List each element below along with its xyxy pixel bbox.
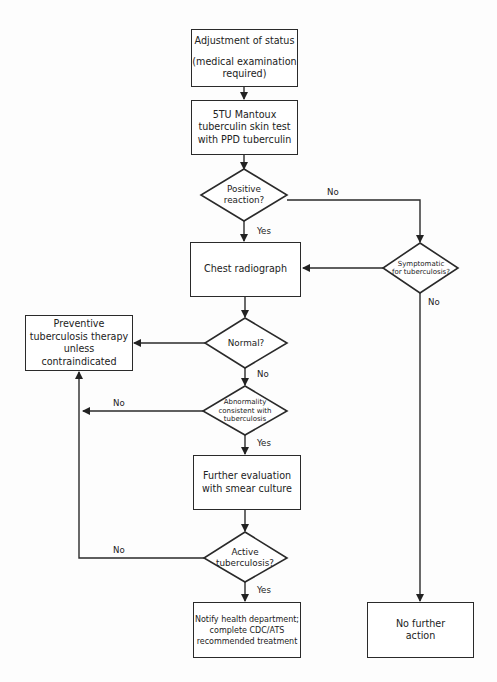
edge-label-abnormality-yes: Yes <box>257 438 271 448</box>
decision-text: Positive <box>227 184 261 195</box>
node-text: action <box>406 630 436 643</box>
node-text: Notify health department; <box>195 614 299 625</box>
edge-label-active-yes: Yes <box>257 585 271 595</box>
node-chest-radiograph: Chest radiograph <box>190 242 301 297</box>
edge-label-symptomatic-no: No <box>428 297 440 307</box>
decision-text: tuberculosis <box>224 415 266 424</box>
decision-text: tuberculosis? <box>216 558 274 569</box>
node-adjustment-of-status: Adjustment of status (medical examinatio… <box>191 29 298 87</box>
node-preventive-therapy: Preventive tuberculosis therapy unless c… <box>25 315 133 371</box>
node-text: 5TU Mantoux <box>213 109 277 122</box>
decision-text: Abnormality <box>224 398 267 407</box>
node-text: unless contraindicated <box>26 343 132 368</box>
edge-label-positive-yes: Yes <box>257 226 271 236</box>
node-further-evaluation: Further evaluation with smear culture <box>193 455 301 510</box>
decision-text: consistent with <box>218 407 271 416</box>
decision-active-tuberculosis: Active tuberculosis? <box>206 543 284 573</box>
node-text: Preventive <box>54 318 105 331</box>
decision-text: for tuberculosis? <box>392 268 450 277</box>
decision-text: Symptomatic <box>398 260 445 269</box>
decision-positive-reaction: Positive reaction? <box>204 180 284 210</box>
node-notify-health-department: Notify health department; complete CDC/A… <box>193 602 301 658</box>
node-text: Chest radiograph <box>204 263 287 276</box>
node-text: tuberculosis therapy <box>30 331 129 344</box>
decision-normal: Normal? <box>208 336 284 350</box>
node-text: No further <box>396 618 445 631</box>
decision-text: Active <box>231 547 258 558</box>
node-text: (medical examination <box>192 56 296 69</box>
node-text: Adjustment of status <box>195 35 295 48</box>
node-text: tuberculin skin test <box>198 121 290 134</box>
edge-label-normal-no: No <box>257 369 269 379</box>
decision-abnormality: Abnormality consistent with tuberculosis <box>206 398 284 424</box>
node-text: with smear culture <box>202 483 292 496</box>
node-no-further-action: No further action <box>367 602 474 658</box>
node-mantoux-test: 5TU Mantoux tuberculin skin test with PP… <box>191 100 298 155</box>
edge-label-active-no: No <box>113 545 125 555</box>
node-text: with PPD tuberculin <box>198 134 292 147</box>
decision-text: Normal? <box>228 338 265 349</box>
edge-label-abnormality-no: No <box>113 398 125 408</box>
decision-symptomatic: Symptomatic for tuberculosis? <box>384 258 458 278</box>
node-text: complete CDC/ATS <box>210 625 285 636</box>
node-text: Further evaluation <box>203 470 291 483</box>
edge-label-positive-no: No <box>327 187 339 197</box>
node-text: required) <box>223 68 267 81</box>
node-text: recommended treatment <box>197 636 298 647</box>
decision-text: reaction? <box>224 195 265 206</box>
